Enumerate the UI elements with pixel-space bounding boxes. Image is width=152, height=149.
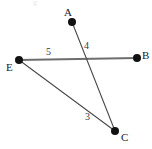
segments-group — [19, 22, 137, 131]
point-b — [133, 54, 141, 62]
point-label-b: B — [142, 50, 149, 61]
diagram-canvas — [0, 0, 152, 149]
label-3: 3 — [85, 112, 90, 122]
geometry-diagram: g ABEC543 — [0, 0, 152, 149]
point-label-a: A — [64, 7, 72, 18]
point-e — [15, 56, 23, 64]
label-5: 5 — [46, 47, 51, 57]
point-a — [68, 18, 76, 26]
point-c — [111, 127, 119, 135]
segment-eb — [19, 58, 137, 60]
point-label-e: E — [6, 62, 13, 73]
points-group — [15, 18, 141, 135]
point-label-c: C — [121, 132, 128, 143]
label-4: 4 — [84, 41, 89, 51]
